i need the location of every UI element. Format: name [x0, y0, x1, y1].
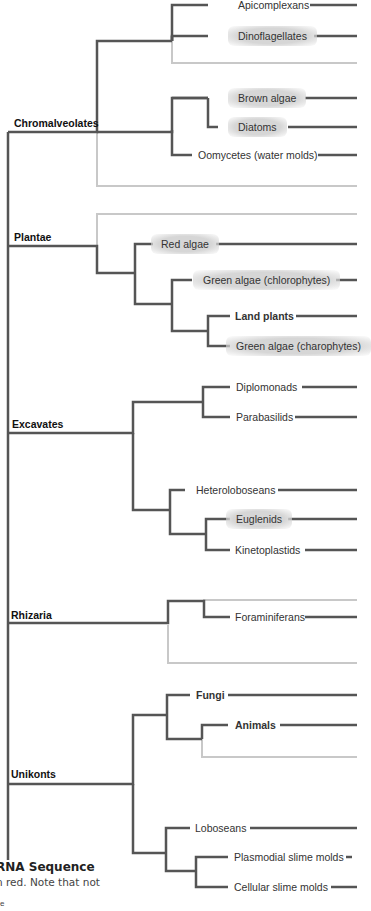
- taxon-red-algae: Red algae: [151, 234, 219, 254]
- taxon-euglenids: Euglenids: [226, 509, 292, 529]
- group-label-excavates: Excavates: [12, 417, 63, 431]
- taxon-diplomonads: Diplomonads: [236, 380, 297, 394]
- taxon-brown-algae: Brown algae: [228, 88, 306, 108]
- group-label-rhizaria: Rhizaria: [11, 608, 52, 622]
- taxon-animals: Animals: [235, 718, 276, 732]
- taxon-land-plants: Land plants: [235, 309, 294, 323]
- taxon-green-algae-charophytes: Green algae (charophytes): [226, 336, 371, 356]
- group-label-chromalveolates: Chromalveolates: [14, 116, 99, 130]
- caption-title: RNA Sequence: [0, 860, 95, 874]
- taxon-diatoms: Diatoms: [228, 117, 287, 137]
- group-label-unikonts: Unikonts: [11, 767, 56, 781]
- caption-text: n red. Note that not: [0, 876, 100, 888]
- taxon-heteroloboseans: Heteroloboseans: [196, 483, 275, 497]
- taxon-plasmodial-slime-molds: Plasmodial slime molds: [234, 850, 344, 864]
- taxon-oomycetes: Oomycetes (water molds): [198, 148, 318, 162]
- taxon-green-algae-chlorophytes: Green algae (chlorophytes): [193, 270, 340, 290]
- taxon-kinetoplastids: Kinetoplastids: [235, 543, 300, 557]
- taxon-dinoflagellates: Dinoflagellates: [228, 26, 317, 46]
- taxon-apicomplexans: Apicomplexans: [238, 0, 309, 12]
- taxon-loboseans: Loboseans: [195, 821, 246, 835]
- group-label-plantae: Plantae: [14, 230, 51, 244]
- taxon-parabasilids: Parabasilids: [236, 410, 293, 424]
- caption-fragment: e: [0, 899, 4, 908]
- taxon-fungi: Fungi: [196, 688, 225, 702]
- taxon-cellular-slime-molds: Cellular slime molds: [234, 880, 328, 894]
- taxon-foraminiferans: Foraminiferans: [235, 610, 305, 624]
